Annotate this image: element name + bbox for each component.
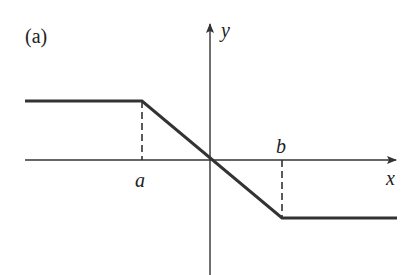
marker-b-label: b	[276, 135, 286, 157]
piecewise-function-diagram: (a) x y a b	[0, 0, 419, 275]
marker-a-label: a	[135, 169, 145, 191]
panel-label: (a)	[25, 25, 47, 48]
y-axis-label: y	[219, 19, 230, 42]
x-axis-label: x	[385, 167, 395, 189]
